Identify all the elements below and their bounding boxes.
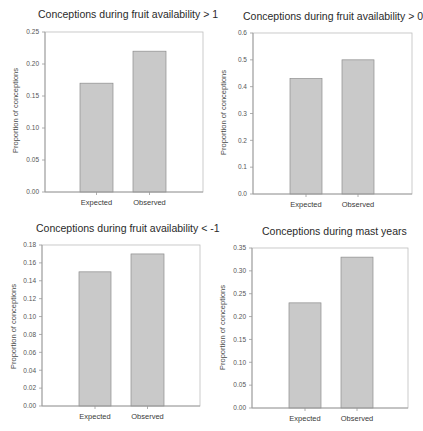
x-tick-label: Observed xyxy=(341,414,374,423)
bar-expected xyxy=(289,303,321,408)
y-tick-label: 0.35 xyxy=(233,244,246,251)
y-tick-label: 0.25 xyxy=(233,290,246,297)
y-tick-label: 0.00 xyxy=(233,404,246,411)
y-tick-label: 0.20 xyxy=(233,313,246,320)
y-tick-label: 0.10 xyxy=(233,359,246,366)
y-tick-label: 0.15 xyxy=(233,336,246,343)
x-tick-label: Expected xyxy=(289,414,320,423)
bar-observed xyxy=(341,257,373,408)
plot-frame xyxy=(252,248,408,408)
y-tick-label: 0.30 xyxy=(233,267,246,274)
y-tick-label: 0.05 xyxy=(233,381,246,388)
